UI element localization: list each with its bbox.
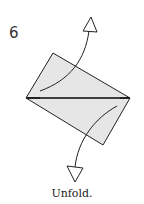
origami-step: 6 Unfold. (0, 0, 144, 204)
fold-diagram (0, 0, 144, 204)
step-caption: Unfold. (0, 187, 144, 200)
